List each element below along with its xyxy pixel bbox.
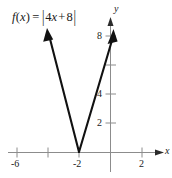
curve-left-branch — [49, 35, 79, 152]
y-axis-label: y — [114, 4, 118, 14]
y-tick-label-eight: 8 — [97, 31, 102, 41]
x-tick-label-neg6: -6 — [11, 159, 19, 169]
equation-annotation: f(x)=|4x+8| — [12, 11, 77, 24]
curve-left-arrowhead — [43, 28, 53, 42]
equation-bar-left: | — [41, 9, 45, 26]
x-tick-label-two: 2 — [139, 159, 144, 169]
equation-bar-right: | — [73, 9, 77, 26]
x-axis-label: x — [165, 146, 169, 156]
x-axis-arrowhead — [155, 150, 164, 156]
x-tick-label-neg2: -2 — [73, 159, 81, 169]
curve-right-branch — [79, 42, 112, 152]
y-tick-label-four: 4 — [97, 89, 102, 99]
y-axis-arrowhead — [108, 17, 114, 26]
curve-right-arrowhead — [108, 29, 118, 44]
plot-canvas — [0, 0, 172, 178]
equation-equals: = — [32, 10, 39, 24]
equation-plus: + — [58, 10, 65, 24]
graph-figure: f(x)=|4x+8| y x -6 -2 2 2 4 8 — [0, 0, 172, 178]
equation-close-paren: ) — [26, 10, 30, 24]
equation-var2: x — [52, 10, 58, 24]
y-tick-label-two: 2 — [97, 118, 102, 128]
